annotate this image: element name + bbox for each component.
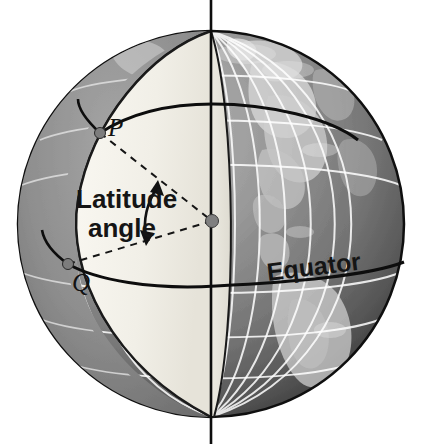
earth-center-point — [206, 215, 219, 228]
globe-latitude-figure: P Q Latitude angle Equator — [0, 0, 424, 444]
vertex-point-q — [63, 259, 74, 270]
vertex-point-p — [95, 128, 106, 139]
point-q-label: Q — [72, 269, 90, 296]
globe-diagram-svg: P Q Latitude angle Equator — [0, 0, 424, 444]
point-p-label: P — [107, 114, 123, 141]
latitude-angle-label-line1: Latitude — [76, 184, 177, 214]
latitude-angle-label-line2: angle — [88, 213, 156, 243]
